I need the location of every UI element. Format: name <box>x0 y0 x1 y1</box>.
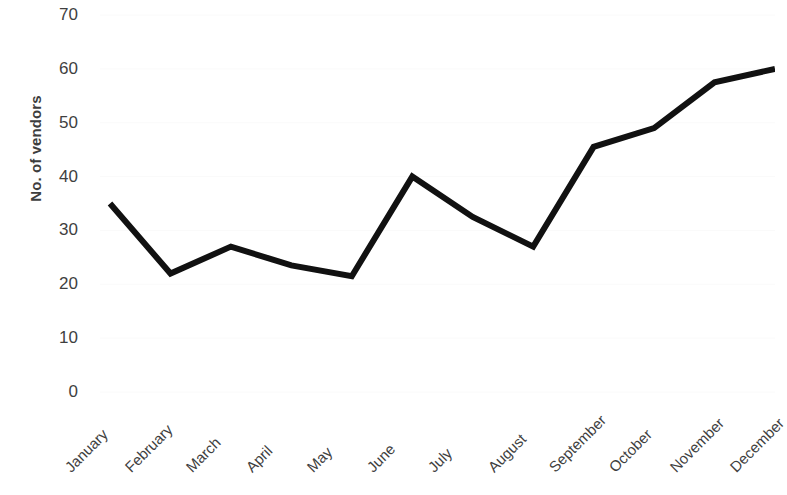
gridlines <box>100 15 775 392</box>
data-series-line <box>110 69 775 276</box>
